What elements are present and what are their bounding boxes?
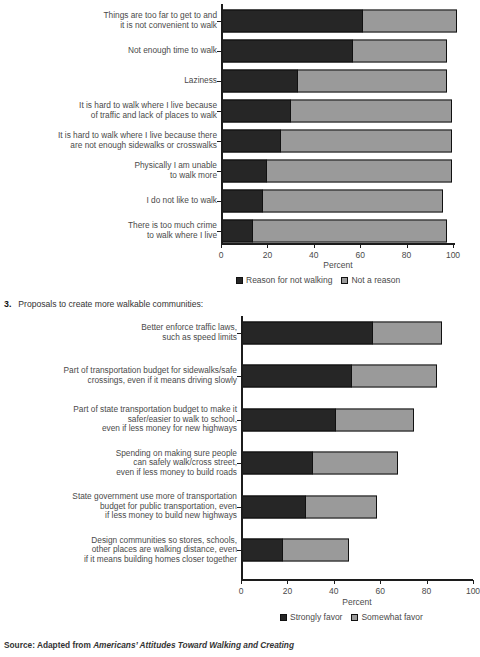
bar-segment-primary [221, 9, 363, 32]
chart-bar-row: Spending on making sure people can safel… [0, 452, 473, 475]
chart2-legend-item-0: Strongly favor [280, 612, 342, 622]
bar-segment-secondary [362, 9, 457, 32]
source-prefix: Source: Adapted from [4, 640, 93, 650]
legend-swatch-dark-icon [236, 277, 243, 284]
bar-segment-secondary [280, 129, 452, 152]
x-tick [473, 580, 474, 584]
stacked-bar [221, 159, 452, 182]
chart1-legend-label-1: Not a reason [351, 275, 400, 285]
bar-track [241, 495, 473, 518]
bar-track [241, 321, 473, 344]
bar-track [221, 189, 453, 212]
x-tick-label: 20 [263, 250, 272, 260]
stacked-bar [241, 539, 349, 562]
bar-track [221, 9, 453, 32]
bar-segment-secondary [290, 99, 452, 122]
chart-bar-row: It is hard to walk where I live because … [0, 99, 453, 122]
stacked-bar [221, 99, 452, 122]
stacked-bar [241, 408, 414, 431]
chart-bar-row: Laziness [0, 69, 453, 92]
bar-segment-primary [241, 408, 336, 431]
stacked-bar [221, 189, 443, 212]
bar-track [241, 452, 473, 475]
x-tick-label: 80 [402, 250, 411, 260]
chart1-x-axis [221, 243, 455, 245]
bar-segment-primary [221, 39, 353, 62]
bar-segment-primary [241, 365, 352, 388]
bar-track [221, 39, 453, 62]
bar-segment-secondary [335, 408, 414, 431]
legend-swatch-light-icon [341, 277, 348, 284]
bar-category-label: Physically I am unable to walk more [0, 161, 221, 180]
chart-bar-row: I do not like to walk [0, 189, 453, 212]
x-tick-label: 40 [329, 586, 338, 596]
chart-proposals-walkable-communities: Better enforce traffic laws, such as spe… [0, 313, 480, 628]
bar-segment-primary [241, 495, 306, 518]
chart-bar-row: Better enforce traffic laws, such as spe… [0, 321, 473, 344]
bar-category-label: Part of transportation budget for sidewa… [0, 366, 241, 385]
chart2-legend-label-1: Somewhat favor [361, 612, 422, 622]
bar-category-label: Laziness [0, 76, 221, 86]
section-3-heading: 3. Proposals to create more walkable com… [4, 299, 203, 309]
source-italic-title: Americans’ Attitudes Toward Walking and … [93, 640, 294, 650]
bar-track [241, 408, 473, 431]
chart1-legend-item-1: Not a reason [341, 275, 400, 285]
bar-track [221, 159, 453, 182]
chart-bar-row: Physically I am unable to walk more [0, 159, 453, 182]
stacked-bar [241, 495, 377, 518]
bar-category-label: Things are too far to get to and it is n… [0, 11, 221, 30]
bar-segment-secondary [252, 219, 447, 242]
bar-segment-primary [221, 99, 291, 122]
bar-segment-secondary [312, 452, 398, 475]
x-tick-label: 100 [466, 586, 480, 596]
x-tick [334, 580, 335, 584]
bar-category-label: State government use more of transportat… [0, 492, 241, 521]
chart2-x-axis-title: Percent [241, 597, 473, 607]
bar-segment-primary [241, 321, 373, 344]
bar-category-label: It is hard to walk where I live because … [0, 131, 221, 150]
chart-bar-row: State government use more of transportat… [0, 495, 473, 518]
chart1-legend-item-0: Reason for not walking [236, 275, 332, 285]
bar-segment-primary [221, 69, 298, 92]
bar-track [221, 129, 453, 152]
x-tick-label: 40 [309, 250, 318, 260]
bar-segment-primary [221, 129, 281, 152]
chart2-legend: Strongly favor Somewhat favor [280, 612, 423, 622]
chart-bar-row: Part of transportation budget for sidewa… [0, 365, 473, 388]
x-tick [221, 244, 222, 248]
chart2-x-axis [241, 579, 473, 581]
source-note: Source: Adapted from Americans’ Attitude… [4, 640, 294, 650]
bar-track [241, 539, 473, 562]
bar-segment-secondary [305, 495, 377, 518]
bar-segment-primary [221, 219, 253, 242]
chart2-legend-label-0: Strongly favor [290, 612, 342, 622]
stacked-bar [221, 9, 457, 32]
bar-segment-primary [241, 539, 283, 562]
x-tick-label: 20 [283, 586, 292, 596]
bar-track [241, 365, 473, 388]
x-tick [267, 244, 268, 248]
bar-segment-secondary [372, 321, 442, 344]
chart1-x-axis-title: Percent [221, 260, 455, 270]
chart-bar-row: Part of state transportation budget to m… [0, 408, 473, 431]
x-tick [241, 580, 242, 584]
chart-bar-row: Design communities so stores, schools, o… [0, 539, 473, 562]
bar-track [221, 99, 453, 122]
x-tick [380, 580, 381, 584]
chart2-legend-item-1: Somewhat favor [351, 612, 422, 622]
x-tick-label: 80 [422, 586, 431, 596]
chart1-legend-label-0: Reason for not walking [246, 275, 332, 285]
stacked-bar [241, 321, 442, 344]
bar-category-label: Better enforce traffic laws, such as spe… [0, 323, 241, 342]
stacked-bar [241, 365, 437, 388]
chart1-legend: Reason for not walking Not a reason [236, 275, 400, 285]
stacked-bar [221, 129, 452, 152]
x-tick [453, 244, 454, 248]
bar-segment-secondary [351, 365, 437, 388]
chart-bar-row: Things are too far to get to and it is n… [0, 9, 453, 32]
chart1-y-axis [221, 4, 223, 244]
legend-swatch-light-icon [351, 614, 358, 621]
bar-category-label: Spending on making sure people can safel… [0, 449, 241, 478]
bar-track [221, 69, 453, 92]
x-tick [427, 580, 428, 584]
